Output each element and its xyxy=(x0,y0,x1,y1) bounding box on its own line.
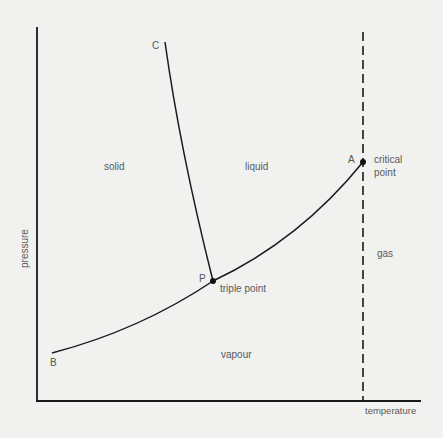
triple-point-label: triple point xyxy=(220,284,266,294)
y-axis-label: pressure xyxy=(20,229,30,268)
fusion-curve xyxy=(165,42,213,281)
critical-point-marker xyxy=(360,159,366,165)
region-solid-label: solid xyxy=(104,162,125,172)
x-axis-label: temperature xyxy=(365,406,416,416)
point-p-label: P xyxy=(199,274,206,284)
triple-point-marker xyxy=(210,278,216,284)
vaporisation-curve xyxy=(213,162,363,281)
point-b-label: B xyxy=(50,358,57,368)
critical-point-label-line1: critical xyxy=(374,155,402,165)
phase-diagram: solid liquid gas vapour C B P A critical… xyxy=(0,0,443,438)
sublimation-curve xyxy=(52,281,213,353)
region-gas-label: gas xyxy=(377,249,393,259)
point-a-label: A xyxy=(348,155,355,165)
region-liquid-label: liquid xyxy=(245,162,268,172)
point-c-label: C xyxy=(152,41,159,51)
critical-point-label-line2: point xyxy=(374,168,396,178)
region-vapour-label: vapour xyxy=(221,350,252,360)
diagram-canvas xyxy=(0,0,443,438)
